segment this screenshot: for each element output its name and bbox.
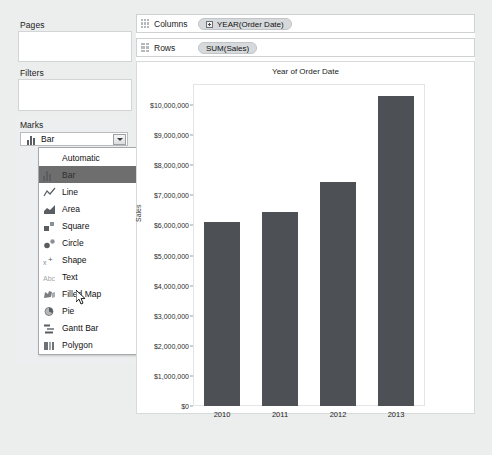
y-axis-tick-label: $3,000,000 xyxy=(137,312,193,319)
y-axis-tick-label: $2,000,000 xyxy=(137,342,193,349)
bar-2011[interactable] xyxy=(262,212,298,406)
y-axis-tick-label: $8,000,000 xyxy=(137,162,193,169)
top-gap xyxy=(136,0,492,14)
x-axis-tick-label: 2012 xyxy=(330,410,347,419)
shape-mark-icon: x + xyxy=(43,254,58,266)
pages-shelf-dropzone[interactable] xyxy=(18,31,132,62)
rows-shelf-label: Rows xyxy=(154,43,175,53)
square-mark-icon xyxy=(43,220,58,232)
plus-expand-icon[interactable] xyxy=(206,21,213,28)
y-axis-tick-label: $1,000,000 xyxy=(137,372,193,379)
chart-view: Year of Order Date Sales $0$1,000,000$2,… xyxy=(136,61,475,414)
polygon-mark-icon xyxy=(43,339,58,351)
bar-mark-icon xyxy=(43,169,58,181)
bar-2010[interactable] xyxy=(204,222,240,406)
y-axis-tick-mark xyxy=(190,375,193,376)
y-axis-tick-label: $4,000,000 xyxy=(137,282,193,289)
columns-shelf-label: Columns xyxy=(154,19,188,29)
mark-option-filled-map[interactable]: Filled Map xyxy=(39,285,137,302)
y-axis-tick-mark xyxy=(190,195,193,196)
filters-shelf-label: Filters xyxy=(20,68,44,78)
columns-grip-icon xyxy=(141,19,149,28)
bar-mark-icon xyxy=(24,134,37,145)
y-axis-tick-mark xyxy=(190,165,193,166)
mark-type-dropdown-list: Automatic Bar Line xyxy=(38,147,138,355)
x-axis-tick-label: 2010 xyxy=(214,410,231,419)
pill-label: SUM(Sales) xyxy=(206,44,249,53)
pill-label: YEAR(Order Date) xyxy=(217,20,284,29)
y-axis-tick-mark xyxy=(190,135,193,136)
y-axis-tick-mark xyxy=(190,315,193,316)
bottom-gap xyxy=(136,414,492,455)
y-axis-tick-label: $7,000,000 xyxy=(137,192,193,199)
svg-text:+: + xyxy=(48,255,53,264)
mark-option-gantt-bar[interactable]: Gantt Bar xyxy=(39,319,137,336)
pages-shelf-label: Pages xyxy=(20,20,45,30)
y-axis-tick-mark xyxy=(190,225,193,226)
mark-type-selected-value: Bar xyxy=(41,134,54,144)
y-axis-tick-label: $9,000,000 xyxy=(137,132,193,139)
y-axis-tick-mark xyxy=(190,255,193,256)
rows-shelf[interactable]: Rows SUM(Sales) xyxy=(136,38,475,57)
svg-text:Abc: Abc xyxy=(43,275,56,282)
rows-grip-icon xyxy=(141,43,149,52)
pie-mark-icon xyxy=(43,305,58,317)
pill-sum-sales[interactable]: SUM(Sales) xyxy=(198,42,257,54)
mark-option-automatic[interactable]: Automatic xyxy=(39,149,137,166)
bar-2013[interactable] xyxy=(378,96,414,406)
marks-card-title: Marks xyxy=(20,120,43,130)
mark-option-bar[interactable]: Bar xyxy=(39,166,137,183)
right-gap xyxy=(475,0,492,455)
x-axis-tick-label: 2013 xyxy=(388,410,405,419)
y-axis-tick-label: $6,000,000 xyxy=(137,222,193,229)
line-mark-icon xyxy=(43,186,58,198)
chevron-down-icon[interactable] xyxy=(113,134,126,145)
mark-option-area[interactable]: Area xyxy=(39,200,137,217)
gantt-bar-mark-icon xyxy=(43,322,58,334)
y-axis-tick-mark xyxy=(190,105,193,106)
mark-option-polygon[interactable]: Polygon xyxy=(39,336,137,353)
mark-type-combobox[interactable]: Bar xyxy=(20,132,128,146)
tableau-worksheet: Pages Filters Marks Bar Automatic Bar xyxy=(0,0,492,455)
y-axis-tick-label: $0 xyxy=(137,403,193,410)
y-axis-tick-label: $10,000,000 xyxy=(137,102,193,109)
mark-option-line[interactable]: Line xyxy=(39,183,137,200)
circle-mark-icon xyxy=(43,237,58,249)
pill-year-order-date[interactable]: YEAR(Order Date) xyxy=(198,18,292,30)
mark-option-pie[interactable]: Pie xyxy=(39,302,137,319)
text-mark-icon: Abc xyxy=(43,271,58,283)
y-axis-tick-label: $5,000,000 xyxy=(137,252,193,259)
filters-shelf-dropzone[interactable] xyxy=(18,79,132,111)
marks-card: Marks Bar Automatic Bar xyxy=(15,118,133,364)
bar-2012[interactable] xyxy=(320,182,356,406)
columns-shelf[interactable]: Columns YEAR(Order Date) xyxy=(136,14,475,33)
mark-option-square[interactable]: Square xyxy=(39,217,137,234)
mark-option-shape[interactable]: x + Shape xyxy=(39,251,137,268)
y-axis-title: Sales xyxy=(135,204,142,222)
x-axis-tick-label: 2011 xyxy=(272,410,288,419)
svg-text:x: x xyxy=(43,259,47,266)
y-axis-tick-mark xyxy=(190,345,193,346)
filled-map-mark-icon xyxy=(43,288,58,300)
y-axis-tick-mark xyxy=(190,406,193,407)
area-mark-icon xyxy=(43,203,58,215)
mark-option-circle[interactable]: Circle xyxy=(39,234,137,251)
y-axis-tick-mark xyxy=(190,285,193,286)
mark-option-text[interactable]: Abc Text xyxy=(39,268,137,285)
chart-title: Year of Order Date xyxy=(137,67,474,76)
